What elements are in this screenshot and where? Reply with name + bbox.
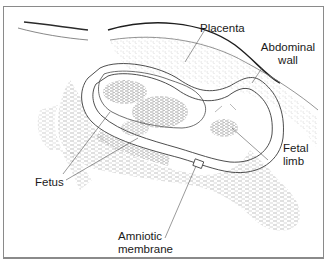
fetal-limb-region [210,104,238,137]
label-abdominal-wall: Abdominal wall [256,41,320,67]
label-amniotic-membrane-line1: Amniotic [118,230,173,243]
label-fetus: Fetus [35,176,64,189]
label-placenta: Placenta [200,22,245,35]
label-abdominal-wall-line1: Abdominal [256,41,320,54]
label-amniotic-membrane-line2: membrane [118,243,173,256]
label-amniotic-membrane: Amniotic membrane [118,230,173,256]
ultrasound-illustration [0,0,328,264]
label-abdominal-wall-line2: wall [256,54,320,67]
label-fetal-limb: Fetal limb [283,142,309,168]
label-fetal-limb-line1: Fetal [283,142,309,155]
label-fetal-limb-line2: limb [283,155,309,168]
membrane-marker [193,159,204,169]
